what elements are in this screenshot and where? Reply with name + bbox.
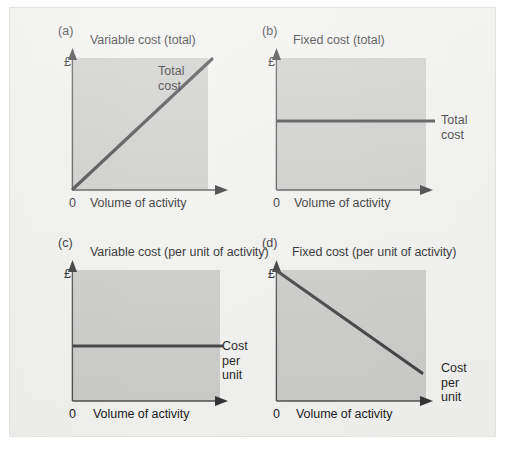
panel-d-series-label-line-3: unit [441, 390, 467, 405]
panel-a-x-zero: 0 [69, 196, 76, 210]
panel-a-series-label-line-1: Total [158, 64, 184, 79]
panel-d-series-label-line-2: per [441, 376, 467, 391]
panel-a-x-label: Volume of activity [90, 196, 186, 210]
panel-a: (a) Variable cost (total) £ Total cost 0… [10, 8, 255, 222]
panel-d-x-label: Volume of activity [296, 407, 392, 421]
panel-b-series-label-line-2: cost [441, 128, 467, 143]
panel-d-series-label: Cost per unit [441, 361, 467, 405]
panel-b-x-zero: 0 [273, 196, 280, 210]
panel-c: (c) Variable cost (per unit of activity)… [10, 222, 255, 436]
panel-b-shade [278, 58, 426, 190]
panel-c-series-label-line-3: unit [222, 368, 248, 383]
panel-c-series-label: Cost per unit [222, 339, 248, 383]
panel-b-series-label-line-1: Total [441, 113, 467, 128]
panel-c-x-zero: 0 [69, 407, 76, 421]
panel-c-y-axis-arrow-icon [68, 260, 77, 272]
panel-d: (d) Fixed cost (per unit of activity) £ … [255, 222, 495, 436]
figure-card: (a) Variable cost (total) £ Total cost 0… [10, 8, 495, 436]
panel-b: (b) Fixed cost (total) £ Total cost 0 Vo… [255, 8, 495, 222]
panel-b-x-axis-arrow-icon [420, 185, 433, 195]
panel-a-plot [10, 8, 255, 222]
panel-c-shade [74, 270, 220, 401]
panel-c-x-label: Volume of activity [93, 407, 189, 421]
panel-b-series-label: Total cost [441, 113, 467, 142]
panel-c-x-axis-arrow-icon [215, 396, 228, 406]
panel-b-y-axis-arrow-icon [272, 48, 281, 60]
panel-c-series-label-line-1: Cost [222, 339, 248, 354]
panel-a-y-axis-arrow-icon [68, 48, 77, 60]
panel-d-x-zero: 0 [273, 407, 280, 421]
panel-c-plot [10, 222, 255, 436]
panel-a-series-label: Total cost [158, 64, 184, 93]
panel-d-shade [278, 270, 426, 401]
panel-b-x-label: Volume of activity [294, 196, 390, 210]
panel-d-x-axis-arrow-icon [420, 396, 433, 406]
panel-a-x-axis-arrow-icon [215, 185, 228, 195]
panel-d-series-label-line-1: Cost [441, 361, 467, 376]
panel-c-series-label-line-2: per [222, 354, 248, 369]
panel-a-series-label-line-2: cost [158, 79, 184, 94]
